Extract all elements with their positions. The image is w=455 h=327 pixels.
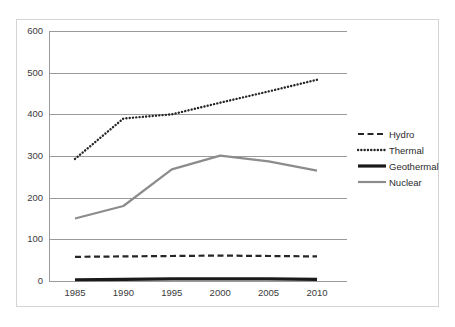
legend-label: Thermal (387, 145, 424, 156)
legend-swatch-geothermal-icon (357, 160, 387, 172)
legend-label: Geothermal (387, 161, 439, 172)
legend-item-hydro[interactable]: Hydro (357, 126, 439, 142)
legend-item-geothermal[interactable]: Geothermal (357, 158, 439, 174)
chart-legend: HydroThermalGeothermalNuclear (357, 126, 439, 190)
legend-item-thermal[interactable]: Thermal (357, 142, 439, 158)
series-line-geothermal (75, 279, 317, 280)
legend-swatch-hydro-icon (357, 128, 387, 140)
legend-swatch-nuclear-icon (357, 176, 387, 188)
series-line-hydro (75, 256, 317, 257)
legend-label: Hydro (387, 129, 414, 140)
series-line-thermal (75, 80, 317, 159)
series-line-nuclear (75, 156, 317, 219)
chart-container: 0100200300400500600 19851990199520002005… (0, 0, 455, 327)
legend-swatch-thermal-icon (357, 144, 387, 156)
legend-label: Nuclear (387, 177, 422, 188)
legend-item-nuclear[interactable]: Nuclear (357, 174, 439, 190)
